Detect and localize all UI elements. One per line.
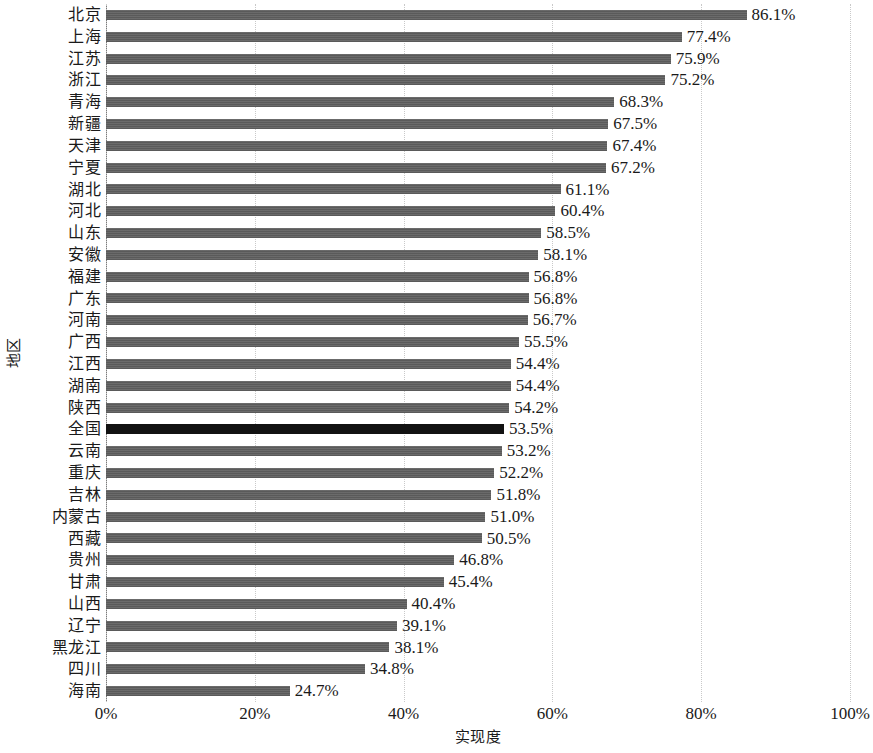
category-label-山东: 山东	[5, 222, 101, 244]
bar-北京	[106, 10, 747, 20]
category-row: 宁夏	[0, 157, 101, 179]
bar-row: 68.3%	[106, 91, 850, 113]
category-row: 河北	[0, 200, 101, 222]
bar-新疆	[106, 119, 608, 129]
category-row: 黑龙江	[0, 637, 101, 659]
category-row: 全国	[0, 418, 101, 440]
category-label-河北: 河北	[5, 200, 101, 222]
bar-江苏	[106, 54, 671, 64]
category-row: 广西	[0, 331, 101, 353]
bar-row: 54.4%	[106, 353, 850, 375]
bar-海南	[106, 686, 290, 696]
bar-row: 24.7%	[106, 680, 850, 702]
category-label-甘肃: 甘肃	[5, 571, 101, 593]
bar-云南	[106, 446, 502, 456]
bar-row: 86.1%	[106, 4, 850, 26]
category-row: 贵州	[0, 549, 101, 571]
bar-value-label: 51.0%	[485, 505, 534, 528]
category-label-海南: 海南	[5, 680, 101, 702]
category-row: 陕西	[0, 397, 101, 419]
bar-青海	[106, 97, 614, 107]
category-label-天津: 天津	[5, 135, 101, 157]
bar-value-label: 54.2%	[509, 396, 558, 419]
bar-value-label: 46.8%	[454, 548, 503, 571]
bar-row: 67.4%	[106, 135, 850, 157]
category-row: 湖北	[0, 179, 101, 201]
bar-湖南	[106, 381, 511, 391]
category-axis: 北京上海江苏浙江青海新疆天津宁夏湖北河北山东安徽福建广东河南广西江西湖南陕西全国…	[0, 4, 101, 702]
category-row: 四川	[0, 658, 101, 680]
bar-value-label: 56.8%	[529, 265, 578, 288]
bar-value-label: 55.5%	[519, 330, 568, 353]
category-label-江苏: 江苏	[5, 48, 101, 70]
x-tick-label-100: 100%	[830, 704, 870, 724]
category-row: 辽宁	[0, 615, 101, 637]
category-label-福建: 福建	[5, 266, 101, 288]
bar-value-label: 34.8%	[365, 657, 414, 680]
bar-内蒙古	[106, 512, 485, 522]
bar-上海	[106, 32, 682, 42]
category-row: 吉林	[0, 484, 101, 506]
bar-row: 51.0%	[106, 506, 850, 528]
category-row: 云南	[0, 440, 101, 462]
category-row: 上海	[0, 26, 101, 48]
category-label-新疆: 新疆	[5, 113, 101, 135]
category-row: 重庆	[0, 462, 101, 484]
category-row: 福建	[0, 266, 101, 288]
category-row: 海南	[0, 680, 101, 702]
bar-辽宁	[106, 621, 397, 631]
category-label-西藏: 西藏	[5, 528, 101, 550]
bar-row: 54.4%	[106, 375, 850, 397]
bar-row: 58.1%	[106, 244, 850, 266]
category-label-山西: 山西	[5, 593, 101, 615]
category-label-全国: 全国	[5, 418, 101, 440]
bar-value-label: 67.2%	[606, 156, 655, 179]
bar-value-label: 56.7%	[528, 308, 577, 331]
bar-value-label: 54.4%	[511, 374, 560, 397]
bar-陕西	[106, 403, 509, 413]
bar-row: 53.5%	[106, 418, 850, 440]
category-label-重庆: 重庆	[5, 462, 101, 484]
x-tick-label-80: 80%	[686, 704, 717, 724]
bar-全国	[106, 424, 504, 434]
category-row: 新疆	[0, 113, 101, 135]
bar-山西	[106, 599, 407, 609]
bar-row: 46.8%	[106, 549, 850, 571]
x-axis-title: 实现度	[106, 725, 850, 746]
bar-山东	[106, 228, 541, 238]
bar-row: 60.4%	[106, 200, 850, 222]
bar-row: 51.8%	[106, 484, 850, 506]
bar-value-label: 75.2%	[665, 68, 714, 91]
bar-江西	[106, 359, 511, 369]
bar-row: 53.2%	[106, 440, 850, 462]
bar-value-label: 50.5%	[482, 527, 531, 550]
bar-row: 55.5%	[106, 331, 850, 353]
category-label-上海: 上海	[5, 26, 101, 48]
bar-row: 45.4%	[106, 571, 850, 593]
category-label-广西: 广西	[5, 331, 101, 353]
category-label-湖北: 湖北	[5, 179, 101, 201]
category-row: 江苏	[0, 48, 101, 70]
category-row: 浙江	[0, 69, 101, 91]
category-label-云南: 云南	[5, 440, 101, 462]
bar-value-label: 54.4%	[511, 352, 560, 375]
category-label-河南: 河南	[5, 309, 101, 331]
bar-广东	[106, 293, 529, 303]
category-row: 江西	[0, 353, 101, 375]
bar-河北	[106, 206, 555, 216]
plot-area: 86.1%77.4%75.9%75.2%68.3%67.5%67.4%67.2%…	[106, 4, 850, 702]
bar-安徽	[106, 250, 538, 260]
bar-广西	[106, 337, 519, 347]
bar-row: 67.2%	[106, 157, 850, 179]
x-tick-label-20: 20%	[239, 704, 270, 724]
bar-吉林	[106, 490, 491, 500]
category-row: 广东	[0, 288, 101, 310]
x-tick-label-60: 60%	[537, 704, 568, 724]
category-label-北京: 北京	[5, 4, 101, 26]
bar-河南	[106, 315, 528, 325]
category-label-辽宁: 辽宁	[5, 615, 101, 637]
category-label-青海: 青海	[5, 91, 101, 113]
bar-row: 38.1%	[106, 637, 850, 659]
bar-value-label: 52.2%	[494, 461, 543, 484]
bar-value-label: 77.4%	[682, 25, 731, 48]
